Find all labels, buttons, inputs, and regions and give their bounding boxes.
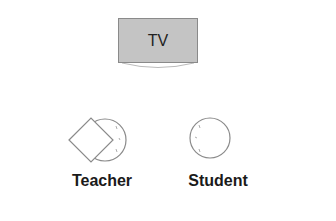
- teacher-label: Teacher: [52, 172, 152, 190]
- student-icon: [190, 118, 230, 158]
- teacher-icon: [69, 118, 126, 162]
- student-label: Student: [168, 172, 268, 190]
- tv-label: TV: [148, 32, 168, 50]
- tv-screen: TV: [118, 18, 198, 63]
- tv-view-arc: [122, 63, 194, 68]
